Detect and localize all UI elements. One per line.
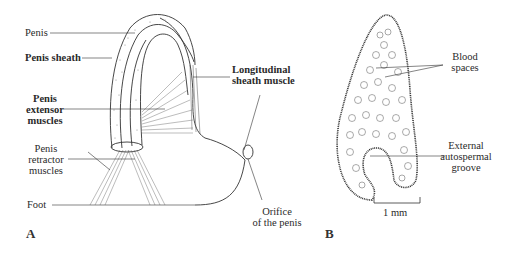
label-line: muscles [24, 165, 68, 176]
panel-letter-a: A [26, 226, 35, 242]
panel-a-drawing [50, 15, 262, 206]
label-line: Penis [24, 143, 68, 154]
scale-bar-label: 1 mm [383, 207, 407, 218]
label-line: extensor [24, 104, 66, 115]
label-longitudinal-sheath-muscle: Longitudinal sheath muscle [232, 64, 295, 86]
label-line: retractor [24, 154, 68, 165]
label-penis-extensor-muscles: Penis extensor muscles [24, 93, 66, 126]
panel-b-drawing [337, 15, 445, 203]
label-line: External [434, 140, 498, 151]
label-external-autospermal-groove: External autospermal groove [434, 140, 498, 173]
label-line: of the penis [245, 217, 309, 228]
label-penis-retractor-muscles: Penis retractor muscles [24, 143, 68, 176]
label-line: Penis [24, 93, 66, 104]
label-line: spaces [444, 62, 486, 73]
label-line: groove [434, 162, 498, 173]
label-penis: Penis [25, 27, 48, 38]
label-line: muscles [24, 115, 66, 126]
label-line: Orifice [245, 206, 309, 217]
label-line: Longitudinal [232, 64, 295, 75]
label-line: autospermal [434, 151, 498, 162]
label-line: Blood [444, 51, 486, 62]
label-line: sheath muscle [232, 75, 295, 86]
label-blood-spaces: Blood spaces [444, 51, 486, 73]
label-penis-sheath: Penis sheath [25, 52, 81, 63]
panel-letter-b: B [325, 226, 334, 242]
label-foot: Foot [27, 199, 46, 210]
label-orifice-of-the-penis: Orifice of the penis [245, 206, 309, 228]
